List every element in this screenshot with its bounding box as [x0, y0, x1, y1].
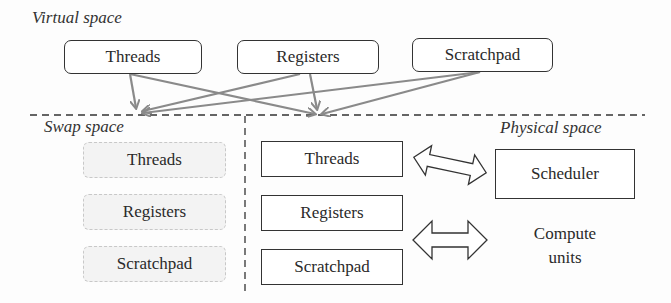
memory-compute-double-arrow-icon	[413, 221, 487, 259]
mapping-arrows	[130, 72, 480, 114]
swap-scratchpad-box: Scratchpad	[83, 246, 226, 282]
swap-space-label: Swap space	[44, 117, 124, 137]
physical-threads-box: Threads	[261, 141, 403, 177]
virtual-space-label: Virtual space	[32, 8, 122, 28]
virtual-threads-box: Threads	[64, 40, 202, 74]
virtual-scratchpad-box: Scratchpad	[412, 38, 553, 72]
physical-space-label: Physical space	[500, 118, 602, 138]
threads-scheduler-double-arrow-icon	[411, 143, 490, 188]
diagram-canvas: Virtual space Threads Registers Scratchp…	[0, 0, 671, 303]
physical-registers-box: Registers	[261, 195, 403, 231]
scheduler-box: Scheduler	[495, 149, 635, 199]
virtual-registers-box: Registers	[237, 40, 379, 74]
physical-scratchpad-box: Scratchpad	[261, 249, 403, 285]
compute-units-line2: units	[510, 246, 620, 270]
swap-registers-box: Registers	[83, 194, 226, 230]
compute-units-line1: Compute	[510, 222, 620, 246]
compute-units-label: Compute units	[510, 222, 620, 270]
swap-threads-box: Threads	[83, 142, 226, 178]
